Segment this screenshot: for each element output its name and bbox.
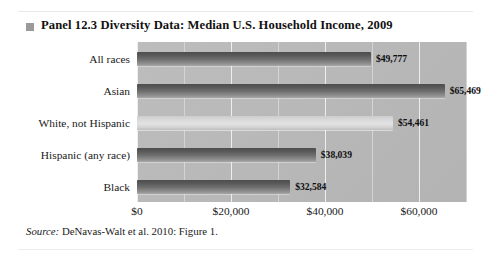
figure-panel: Panel 12.3 Diversity Data: Median U.S. H…	[0, 0, 491, 266]
square-bullet-icon	[26, 23, 34, 31]
plot-inner: $49,777$65,469$54,461$38,039$32,584	[137, 42, 466, 202]
bar	[137, 52, 371, 66]
bar-value-label: $38,039	[321, 148, 352, 162]
panel-top-rule	[18, 11, 473, 12]
category-label: White, not Hispanic	[0, 117, 130, 129]
bar	[137, 116, 393, 130]
category-axis: All racesAsianWhite, not HispanicHispani…	[26, 42, 136, 202]
panel-bottom-rule	[18, 249, 473, 250]
category-label: Black	[0, 181, 130, 193]
bar-chart: All racesAsianWhite, not HispanicHispani…	[26, 42, 466, 202]
source-note: Source: DeNavas-Walt et al. 2010: Figure…	[26, 225, 218, 237]
page-title: Panel 12.3 Diversity Data: Median U.S. H…	[41, 18, 393, 33]
x-tick-label: $40,000	[306, 205, 343, 217]
category-label: Asian	[0, 85, 130, 97]
source-label: Source:	[26, 225, 59, 237]
source-text: DeNavas-Walt et al. 2010: Figure 1.	[59, 225, 218, 237]
x-tick-label: $60,000	[400, 205, 437, 217]
bar	[137, 180, 290, 194]
bar	[137, 148, 316, 162]
category-label: Hispanic (any race)	[0, 149, 130, 161]
category-label: All races	[0, 53, 130, 65]
x-axis-ticks: $0$20,000$40,000$60,000	[137, 205, 466, 225]
panel-title-row: Panel 12.3 Diversity Data: Median U.S. H…	[26, 18, 393, 33]
gridline-minor	[466, 42, 467, 202]
bar-value-label: $32,584	[295, 180, 326, 194]
x-tick-label: $20,000	[212, 205, 249, 217]
bar	[137, 84, 445, 98]
plot-area: $49,777$65,469$54,461$38,039$32,584	[137, 42, 466, 202]
x-tick-label: $0	[131, 205, 142, 217]
bar-value-label: $65,469	[450, 84, 481, 98]
bar-value-label: $49,777	[376, 52, 407, 66]
bar-value-label: $54,461	[398, 116, 429, 130]
